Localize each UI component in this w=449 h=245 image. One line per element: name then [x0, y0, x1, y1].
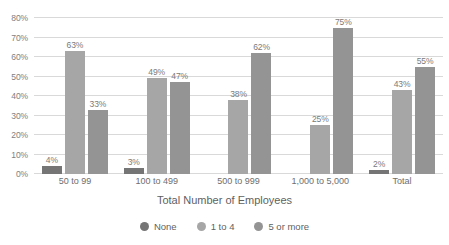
bar[interactable] [333, 28, 353, 174]
y-axis-tick-label: 10% [11, 150, 28, 160]
y-axis-tick-label: 20% [11, 130, 28, 140]
bar-value-label: 63% [67, 40, 84, 50]
bar-group: 25%75% [279, 18, 361, 174]
y-axis-tick-label: 0% [16, 169, 28, 179]
y-axis-tick-label: 40% [11, 91, 28, 101]
bar-group: 2%43%55% [361, 18, 443, 174]
bar[interactable] [147, 78, 167, 174]
bar-value-label: 3% [128, 157, 140, 167]
bar[interactable] [392, 90, 412, 174]
x-axis-tick-label: 500 to 999 [198, 176, 280, 186]
bar[interactable] [170, 82, 190, 174]
legend-swatch-circle-icon [140, 222, 149, 231]
bar-value-label: 43% [394, 79, 411, 89]
bar-value-label: 49% [148, 67, 165, 77]
y-axis: 0%10%20%30%40%50%60%70%80% [0, 18, 32, 174]
x-axis-tick-label: Total [361, 176, 443, 186]
bar-group: 38%62% [198, 18, 280, 174]
bar[interactable] [415, 67, 435, 174]
legend-label: 5 or more [268, 221, 309, 232]
bar-value-label: 38% [230, 89, 247, 99]
x-axis-tick-label: 50 to 99 [34, 176, 116, 186]
y-axis-tick-label: 80% [11, 13, 28, 23]
bar-slot[interactable]: 4% [42, 18, 62, 174]
bar-slot[interactable]: 62% [251, 18, 271, 174]
bar-groups: 4%63%33%3%49%47%38%62%25%75%2%43%55% [34, 18, 443, 174]
bar-value-label: 33% [90, 99, 107, 109]
bar[interactable] [310, 125, 330, 174]
bar[interactable] [228, 100, 248, 174]
legend-item[interactable]: None [140, 221, 177, 232]
bar-group: 3%49%47% [116, 18, 198, 174]
bar[interactable] [42, 166, 62, 174]
legend-item[interactable]: 1 to 4 [197, 221, 235, 232]
bar[interactable] [65, 51, 85, 174]
bar-slot[interactable]: 55% [415, 18, 435, 174]
bar-value-label: 75% [335, 17, 352, 27]
bar-slot[interactable]: 43% [392, 18, 412, 174]
bar-slot[interactable]: 33% [88, 18, 108, 174]
bar-value-label: 25% [312, 114, 329, 124]
legend-label: None [154, 221, 177, 232]
bar-value-label: 2% [373, 159, 385, 169]
x-axis-tick-label: 1,000 to 5,000 [279, 176, 361, 186]
y-axis-tick-label: 70% [11, 33, 28, 43]
y-axis-tick-label: 60% [11, 52, 28, 62]
bar-slot[interactable]: 25% [310, 18, 330, 174]
bar-slot[interactable]: 38% [228, 18, 248, 174]
bar[interactable] [251, 53, 271, 174]
bar[interactable] [124, 168, 144, 174]
bar-slot[interactable]: 63% [65, 18, 85, 174]
bar[interactable] [88, 110, 108, 174]
bar-slot[interactable] [205, 18, 225, 174]
x-axis-title: Total Number of Employees [0, 194, 449, 206]
y-axis-tick-label: 30% [11, 111, 28, 121]
bar[interactable] [369, 170, 389, 174]
chart-legend: None1 to 45 or more [0, 221, 449, 232]
bar-value-label: 62% [253, 42, 270, 52]
bar-value-label: 4% [46, 155, 58, 165]
bar-slot[interactable]: 47% [170, 18, 190, 174]
x-axis-tick-label: 100 to 499 [116, 176, 198, 186]
bar-chart: 0%10%20%30%40%50%60%70%80% 4%63%33%3%49%… [0, 0, 449, 245]
bar-group: 4%63%33% [34, 18, 116, 174]
bar-value-label: 55% [417, 56, 434, 66]
bar-value-label: 47% [171, 71, 188, 81]
x-axis: 50 to 99100 to 499500 to 9991,000 to 5,0… [34, 176, 443, 192]
legend-swatch-circle-icon [254, 222, 263, 231]
bar-slot[interactable] [287, 18, 307, 174]
legend-label: 1 to 4 [211, 221, 235, 232]
bar-slot[interactable]: 75% [333, 18, 353, 174]
bar-slot[interactable]: 49% [147, 18, 167, 174]
bar-slot[interactable]: 3% [124, 18, 144, 174]
legend-item[interactable]: 5 or more [254, 221, 309, 232]
legend-swatch-circle-icon [197, 222, 206, 231]
y-axis-tick-label: 50% [11, 72, 28, 82]
bar-slot[interactable]: 2% [369, 18, 389, 174]
